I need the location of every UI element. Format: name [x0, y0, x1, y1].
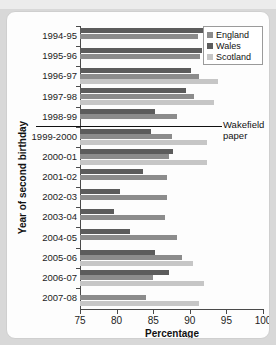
y-axis-tick [76, 46, 80, 47]
y-axis-label: 2002-03 [11, 191, 77, 202]
bar-england [80, 255, 182, 260]
y-axis-tick [76, 66, 80, 67]
wakefield-annotation-label: Wakefield paper [223, 119, 270, 141]
legend-swatch-england [207, 32, 213, 38]
bar-england [80, 195, 167, 200]
bar-wales [80, 270, 169, 275]
y-axis-label: 1996-97 [11, 70, 77, 81]
bar-group [80, 268, 263, 288]
x-axis-label: 90 [177, 315, 203, 326]
y-axis-tick [76, 268, 80, 269]
bar-england [80, 34, 198, 39]
y-axis-tick [76, 227, 80, 228]
plot-area [80, 26, 263, 308]
wakefield-annotation-line2: paper [223, 130, 270, 141]
x-axis-label: 85 [140, 315, 166, 326]
bar-england [80, 235, 177, 240]
legend-swatch-scotland [207, 54, 213, 60]
legend-item-scotland: Scotland [207, 51, 259, 62]
bar-group [80, 167, 263, 187]
cropped-top-strip [0, 0, 276, 9]
bar-england [80, 215, 165, 220]
bar-scotland [80, 301, 199, 306]
chart-figure: Year of second birthday 1994-951995-9619… [6, 11, 270, 339]
bar-group [80, 147, 263, 167]
y-axis-label: 2007-08 [11, 292, 77, 303]
bar-scotland [80, 261, 193, 266]
y-axis-label: 2000-01 [11, 151, 77, 162]
y-axis-label: 1997-98 [11, 91, 77, 102]
y-axis-tick [76, 288, 80, 289]
wakefield-annotation-line [36, 126, 222, 127]
bar-wales [80, 229, 130, 234]
y-axis-label: 1995-96 [11, 50, 77, 61]
y-axis-label: 2005-06 [11, 252, 77, 263]
legend-label-wales: Wales [216, 41, 241, 51]
bar-group [80, 207, 263, 227]
bar-wales [80, 129, 151, 134]
y-axis-tick-labels: 1994-951995-961996-971997-981998-991999-… [10, 26, 77, 309]
x-axis-tick [226, 310, 227, 314]
x-axis-label: 95 [213, 315, 239, 326]
bar-wales [80, 189, 120, 194]
legend-item-england: England [207, 29, 259, 40]
y-axis-label: 1999-2000 [11, 131, 77, 142]
y-axis-tick [76, 167, 80, 168]
bar-group [80, 86, 263, 106]
y-axis-label: 2006-07 [11, 272, 77, 283]
bar-wales [80, 28, 203, 33]
bar-scotland [80, 100, 214, 105]
bar-wales [80, 149, 173, 154]
bar-group [80, 187, 263, 207]
y-axis-label: 2003-04 [11, 211, 77, 222]
x-axis-line [80, 309, 264, 310]
y-axis-tick [76, 107, 80, 108]
bar-wales [80, 250, 155, 255]
bar-england [80, 154, 169, 159]
bar-england [80, 134, 172, 139]
bar-scotland [80, 281, 204, 286]
y-axis-tick [76, 207, 80, 208]
bar-wales [80, 209, 114, 214]
x-axis-tick [263, 310, 264, 314]
y-axis-tick [76, 248, 80, 249]
bar-wales [80, 109, 155, 114]
y-axis-tick [76, 26, 80, 27]
bar-england [80, 175, 167, 180]
bar-group [80, 66, 263, 86]
bar-wales [80, 169, 143, 174]
bar-england [80, 94, 194, 99]
y-axis-tick [76, 147, 80, 148]
bar-england [80, 54, 200, 59]
x-axis-title: Percentage [80, 328, 264, 339]
y-axis-tick [76, 127, 80, 128]
x-axis-tick [80, 310, 81, 314]
y-axis-tick [76, 187, 80, 188]
y-axis-label: 2001-02 [11, 171, 77, 182]
wakefield-annotation-line1: Wakefield [223, 119, 270, 130]
bar-group [80, 288, 263, 308]
y-axis-label: 1994-95 [11, 30, 77, 41]
legend-item-wales: Wales [207, 40, 259, 51]
x-axis-label: 75 [67, 315, 93, 326]
bar-england [80, 114, 177, 119]
y-axis-tick [76, 86, 80, 87]
legend-label-england: England [216, 30, 249, 40]
x-axis-tick [117, 310, 118, 314]
chart-legend: England Wales Scotland [203, 26, 263, 65]
bar-scotland [80, 79, 218, 84]
legend-swatch-wales [207, 43, 213, 49]
bar-wales [80, 48, 202, 53]
bar-england [80, 275, 153, 280]
x-axis-label: 100 [250, 315, 270, 326]
bar-group [80, 227, 263, 247]
y-axis-label: 1998-99 [11, 111, 77, 122]
legend-label-scotland: Scotland [216, 52, 251, 62]
bar-england [80, 295, 146, 300]
x-axis-tick [153, 310, 154, 314]
x-axis-tick [190, 310, 191, 314]
bar-scotland [80, 160, 207, 165]
bar-england [80, 74, 199, 79]
bar-wales [80, 68, 191, 73]
bar-scotland [80, 140, 207, 145]
